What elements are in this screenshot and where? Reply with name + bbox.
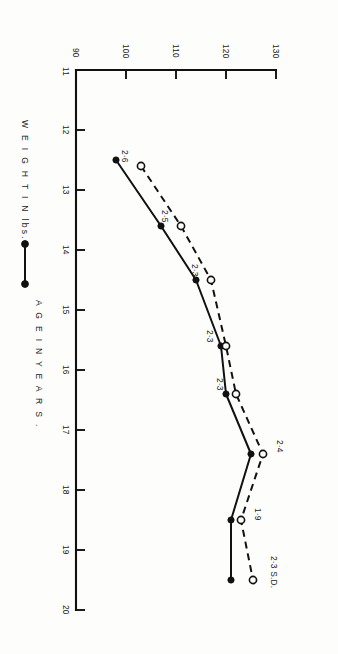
xtick-label-20: 20 (62, 605, 70, 615)
y-axis-title-weight: W E I G H T I N lbs. (20, 120, 29, 241)
xtick-label-11: 11 (62, 67, 70, 76)
sd-label-7: 2·3 S.D. (270, 556, 278, 588)
figure-canvas: 11 12 13 14 15 16 17 18 19 20 A G E I N … (0, 0, 338, 654)
x-axis-title: A G E I N Y E A R S . (34, 300, 43, 429)
sd-label-5: 2·4 (276, 440, 284, 453)
ytick-label-130: 130 (272, 44, 280, 59)
xtick-label-12: 12 (62, 125, 70, 135)
sd-label-4: 2·3 (216, 378, 224, 391)
xtick-label-17: 17 (62, 425, 70, 435)
series-ratio (137, 162, 266, 583)
ytick-label-90: 90 (72, 48, 80, 58)
series-weight (113, 157, 254, 583)
xtick-label-13: 13 (62, 185, 70, 195)
y-axis-weight (76, 70, 276, 79)
ytick-label-120: 120 (222, 44, 230, 59)
xtick-label-18: 18 (62, 485, 70, 495)
ytick-label-110: 110 (172, 44, 180, 58)
xtick-label-19: 19 (62, 545, 70, 555)
sd-label-0: 2·6 (121, 150, 129, 163)
chart-svg (0, 0, 338, 654)
plot-area: 11 12 13 14 15 16 17 18 19 20 A G E I N … (0, 0, 338, 654)
sd-label-2: 2·3 (191, 264, 199, 277)
xtick-label-15: 15 (62, 305, 70, 315)
xtick-label-14: 14 (62, 245, 70, 255)
ytick-label-100: 100 (122, 44, 130, 59)
sd-label-1: 2·5 (161, 210, 169, 223)
x-axis (76, 70, 85, 610)
xtick-label-16: 16 (62, 365, 70, 375)
sd-label-3: 2·3 (206, 330, 214, 343)
legend-sample-solid (22, 241, 29, 288)
sd-label-6: 1·9 (254, 508, 262, 521)
